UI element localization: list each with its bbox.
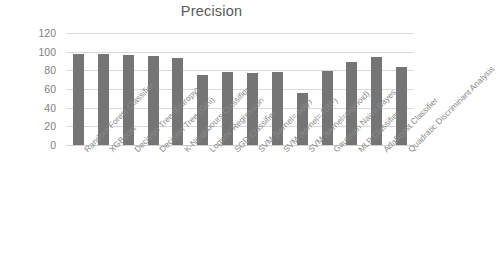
- y-tick-label-80: 80: [44, 64, 56, 76]
- bar: [73, 54, 84, 145]
- y-tick-label-100: 100: [38, 46, 56, 58]
- y-tick-label-120: 120: [38, 27, 56, 39]
- y-tick-label-20: 20: [44, 120, 56, 132]
- y-tick-label-40: 40: [44, 102, 56, 114]
- chart-title: Precision: [0, 3, 423, 19]
- x-axis: Random Forest ClassifierXGBoostDecision …: [66, 147, 414, 275]
- y-tick-label-60: 60: [44, 83, 56, 95]
- y-axis: 020406080100120: [0, 33, 60, 145]
- y-tick-label-0: 0: [50, 139, 56, 151]
